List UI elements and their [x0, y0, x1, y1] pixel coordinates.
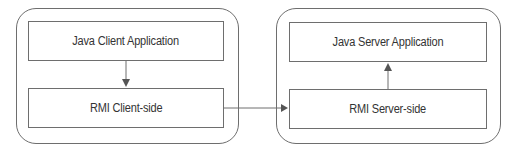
rmi-server-side-label: RMI Server-side: [350, 102, 427, 116]
rmi-server-side-box: RMI Server-side: [289, 89, 487, 129]
java-server-application-label: Java Server Application: [333, 35, 444, 49]
java-client-application-box: Java Client Application: [28, 21, 224, 61]
java-server-application-box: Java Server Application: [289, 22, 487, 62]
java-client-application-label: Java Client Application: [73, 34, 180, 48]
rmi-client-side-box: RMI Client-side: [28, 88, 224, 128]
rmi-client-side-label: RMI Client-side: [90, 101, 163, 115]
